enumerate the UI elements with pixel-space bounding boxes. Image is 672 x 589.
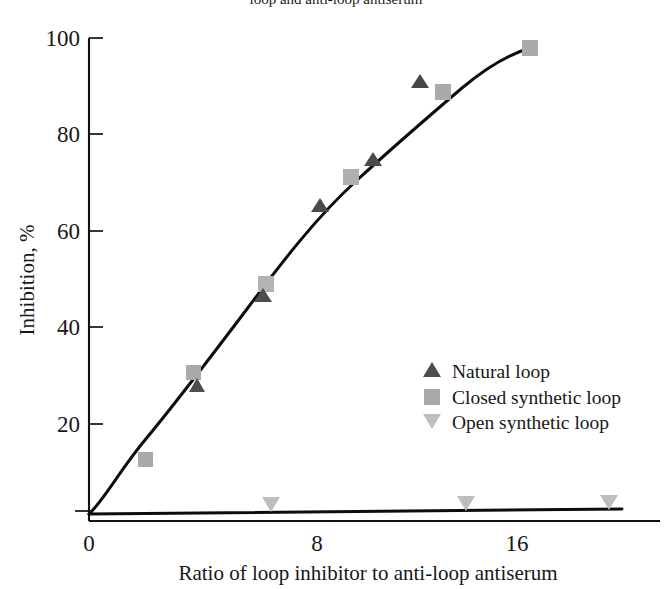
y-axis-title: Inhibition, % — [15, 225, 39, 336]
x-tick-label-0: 0 — [83, 531, 95, 556]
data-point-square — [138, 452, 153, 467]
data-point-square — [343, 169, 359, 185]
legend-marker-triangle-down-icon — [423, 414, 441, 429]
chart-canvas: 100 80 60 40 20 0 8 16 Ratio of loop inh… — [0, 0, 672, 589]
fitted-curve-baseline — [89, 509, 622, 514]
data-point-square — [522, 40, 538, 56]
series-natural-loop — [189, 74, 429, 392]
data-point-square — [186, 365, 201, 380]
legend-marker-square-icon — [424, 389, 440, 405]
y-tick-label-80: 80 — [57, 122, 80, 147]
data-point-triangle-up — [411, 74, 429, 88]
data-point-square — [435, 84, 451, 100]
legend-label-natural-loop: Natural loop — [452, 361, 550, 382]
x-axis-title: Ratio of loop inhibitor to anti-loop ant… — [178, 561, 557, 585]
data-point-square — [258, 276, 274, 292]
data-point-triangle-down — [262, 497, 280, 512]
legend-marker-triangle-up-icon — [423, 362, 441, 377]
legend-label-open-synthetic-loop: Open synthetic loop — [452, 412, 609, 433]
x-tick-label-16: 16 — [506, 531, 529, 556]
data-point-triangle-up — [311, 198, 329, 212]
figure: loop and anti-loop antiserum 100 80 60 4… — [0, 0, 672, 589]
y-tick-label-20: 20 — [57, 412, 80, 437]
fitted-curve-upper — [89, 48, 530, 514]
y-tick-label-40: 40 — [57, 315, 80, 340]
data-point-triangle-down — [457, 496, 475, 511]
chart-legend: Natural loop Closed synthetic loop Open … — [423, 361, 621, 433]
x-tick-label-8: 8 — [311, 531, 323, 556]
legend-label-closed-synthetic-loop: Closed synthetic loop — [452, 387, 621, 408]
y-tick-label-60: 60 — [57, 219, 80, 244]
y-tick-label-100: 100 — [46, 26, 81, 51]
